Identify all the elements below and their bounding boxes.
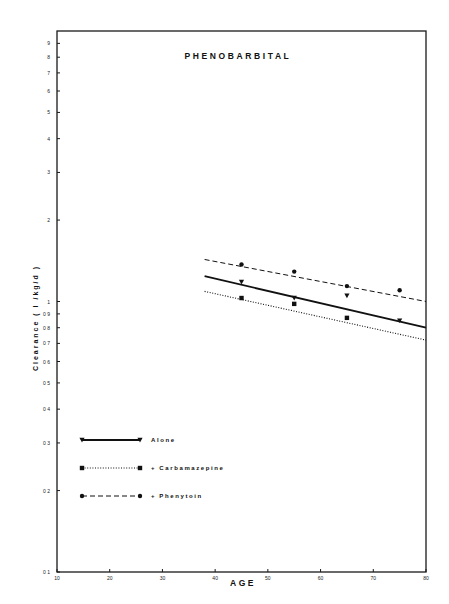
y-tick-label: 0 8 bbox=[43, 325, 50, 331]
x-tick-label: 20 bbox=[107, 575, 113, 581]
y-tick-label: 1 bbox=[47, 299, 50, 305]
data-point bbox=[239, 262, 243, 266]
y-tick-label: 0 1 bbox=[43, 569, 50, 575]
chart: PHENOBARBITAL AGE Clearance ( l /kg/d ) … bbox=[0, 0, 449, 604]
legend: Alone+ Carbamazepine+ Phenytoin bbox=[79, 437, 224, 499]
series-layer bbox=[205, 259, 426, 340]
legend-marker-end bbox=[138, 466, 142, 470]
y-tick-label: 0 5 bbox=[43, 380, 50, 386]
y-tick-label: 7 bbox=[47, 70, 50, 76]
legend-marker-start bbox=[80, 466, 84, 470]
legend-label: + Carbamazepine bbox=[151, 465, 225, 471]
data-point bbox=[397, 288, 401, 292]
series-carbamazepine bbox=[205, 291, 426, 340]
legend-item-carbamazepine: + Carbamazepine bbox=[80, 465, 225, 471]
series-alone bbox=[205, 276, 426, 327]
fit-line-phenytoin bbox=[205, 259, 426, 301]
y-tick-label: 0 9 bbox=[43, 311, 50, 317]
x-tick-label: 80 bbox=[423, 575, 429, 581]
legend-label: Alone bbox=[151, 437, 176, 443]
y-tick-label: 0 2 bbox=[43, 488, 50, 494]
data-point bbox=[239, 296, 243, 300]
y-tick-label: 2 bbox=[47, 217, 50, 223]
y-axis-label: Clearance ( l /kg/d ) bbox=[32, 265, 40, 371]
y-tick-label: 4 bbox=[47, 136, 50, 142]
x-tick-label: 10 bbox=[54, 575, 60, 581]
y-tick-label: 0 6 bbox=[43, 359, 50, 365]
fit-line-carbamazepine bbox=[205, 291, 426, 340]
x-tick-label: 70 bbox=[371, 575, 377, 581]
data-point bbox=[345, 284, 349, 288]
x-tick-label: 50 bbox=[265, 575, 271, 581]
y-tick-label: 0 4 bbox=[43, 406, 50, 412]
data-point bbox=[344, 294, 349, 299]
fit-line-alone bbox=[205, 276, 426, 327]
data-point bbox=[292, 302, 296, 306]
data-point bbox=[292, 269, 296, 273]
legend-marker-end bbox=[138, 494, 142, 498]
series-phenytoin bbox=[205, 259, 426, 301]
y-tick-label: 9 bbox=[47, 40, 50, 46]
y-tick-label: 0 3 bbox=[43, 440, 50, 446]
x-tick-label: 30 bbox=[160, 575, 166, 581]
y-tick-label: 8 bbox=[47, 54, 50, 60]
legend-label: + Phenytoin bbox=[151, 493, 203, 499]
x-axis-label: AGE bbox=[230, 578, 256, 588]
data-point bbox=[345, 316, 349, 320]
legend-item-alone: Alone bbox=[79, 437, 175, 443]
legend-marker-start bbox=[80, 494, 84, 498]
x-tick-label: 60 bbox=[318, 575, 324, 581]
chart-title: PHENOBARBITAL bbox=[185, 51, 292, 61]
y-tick-label: 6 bbox=[47, 88, 50, 94]
plot-frame bbox=[57, 31, 426, 572]
y-tick-label: 5 bbox=[47, 109, 50, 115]
y-tick-label: 3 bbox=[47, 169, 50, 175]
legend-item-phenytoin: + Phenytoin bbox=[80, 493, 203, 499]
y-tick-label: 0 7 bbox=[43, 340, 50, 346]
x-tick-label: 40 bbox=[212, 575, 218, 581]
